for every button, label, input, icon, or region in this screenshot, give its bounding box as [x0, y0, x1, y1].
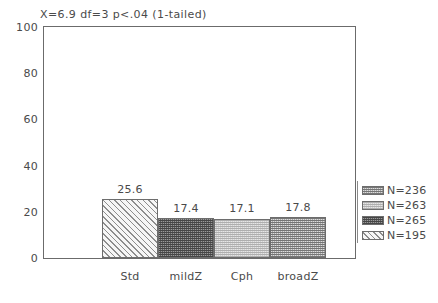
y-tick-label: 100 [16, 22, 38, 33]
bar-value-label: 25.6 [117, 184, 143, 195]
x-tick-label: Cph [231, 271, 254, 283]
chart-title: X=6.9 df=3 p<.04 (1-tailed) [40, 8, 207, 21]
y-tick-label: 80 [23, 68, 38, 79]
legend-item: N=195 [362, 228, 438, 243]
legend-swatch [362, 216, 384, 225]
x-tick-label: mildZ [170, 271, 203, 283]
y-tick-label: 60 [23, 114, 38, 125]
legend-swatch [362, 186, 384, 195]
legend-label: N=263 [387, 200, 426, 211]
y-axis: 020406080100 [0, 26, 38, 259]
legend-label: N=195 [387, 230, 426, 241]
legend-item: N=236 [362, 183, 438, 198]
bar [270, 217, 326, 258]
bar-chart-figure: X=6.9 df=3 p<.04 (1-tailed) 020406080100… [0, 0, 438, 303]
bar [214, 219, 270, 259]
x-tick-label: broadZ [277, 271, 318, 283]
legend-item: N=265 [362, 213, 438, 228]
y-tick-label: 40 [23, 160, 38, 171]
bar-value-label: 17.4 [173, 203, 199, 214]
legend-swatch [362, 231, 384, 240]
legend-swatch [362, 201, 384, 210]
bar-value-label: 17.1 [229, 203, 255, 214]
bar-value-label: 17.8 [285, 202, 311, 213]
y-tick-label: 0 [31, 253, 38, 264]
y-tick-label: 20 [23, 206, 38, 217]
x-tick-label: Std [120, 271, 139, 283]
x-axis: StdmildZCphbroadZ [44, 271, 355, 287]
legend: N=236N=263N=265N=195 [357, 181, 438, 243]
legend-item: N=263 [362, 198, 438, 213]
legend-label: N=236 [387, 185, 426, 196]
legend-label: N=265 [387, 215, 426, 226]
bar [102, 199, 158, 258]
bars-container: 25.617.417.117.8 [44, 27, 355, 258]
bar [158, 218, 214, 258]
